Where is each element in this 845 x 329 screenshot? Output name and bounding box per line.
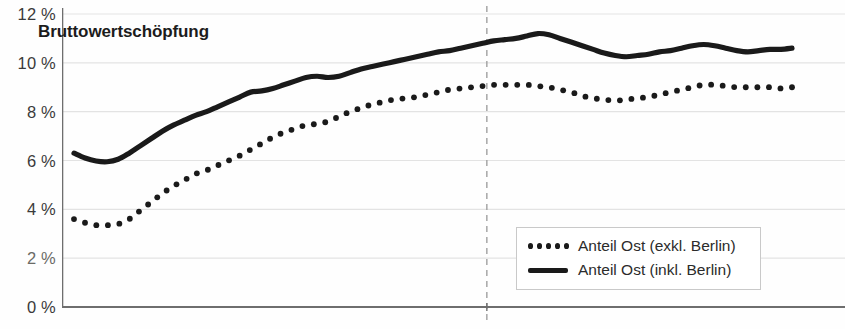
series-dot: [468, 84, 474, 90]
y-axis-tick-label: 8 %: [4, 102, 56, 121]
series-dot: [289, 127, 295, 133]
series-dot: [278, 131, 284, 137]
series-dot: [674, 88, 680, 94]
series-dot: [400, 96, 406, 102]
series-dot: [480, 83, 486, 89]
series-dot: [184, 176, 190, 182]
series-dot: [267, 136, 273, 142]
legend-item-inkl-berlin[interactable]: Anteil Ost (inkl. Berlin): [527, 258, 750, 282]
series-dot: [82, 220, 88, 226]
series-dot: [663, 90, 669, 96]
series-dot: [457, 86, 463, 92]
y-axis-tick-label: 10 %: [4, 53, 56, 72]
series-dot: [720, 83, 726, 89]
series-exkl-berlin: [71, 82, 795, 228]
series-dot: [145, 202, 151, 208]
series-dot: [594, 96, 600, 102]
series-dot: [93, 222, 99, 228]
series-dot: [388, 97, 394, 103]
series-dot: [164, 188, 170, 194]
series-dot: [355, 106, 361, 112]
series-dot: [778, 86, 784, 92]
series-dot: [205, 167, 211, 173]
series-dot: [322, 119, 328, 125]
series-dot: [445, 87, 451, 93]
series-dot: [366, 103, 372, 109]
series-dot: [333, 115, 339, 121]
series-dot: [344, 110, 350, 116]
legend-item-exkl-berlin[interactable]: Anteil Ost (exkl. Berlin): [527, 234, 750, 258]
legend-label-exkl-berlin: Anteil Ost (exkl. Berlin): [578, 237, 736, 255]
series-dot: [617, 97, 623, 103]
series-dot: [503, 82, 509, 88]
series-dot: [377, 100, 383, 106]
series-dot: [629, 96, 635, 102]
series-dot: [685, 85, 691, 91]
series-inkl-berlin: [74, 33, 792, 161]
series-dot: [754, 84, 760, 90]
series-dot: [116, 221, 122, 227]
series-dot: [237, 153, 243, 159]
series-dot: [194, 170, 200, 176]
series-dot: [136, 209, 142, 215]
series-dot: [697, 83, 703, 89]
y-axis-tick-label: 6 %: [4, 151, 56, 170]
series-dot: [731, 84, 737, 90]
chart-title: Bruttowertschöpfung: [38, 22, 209, 42]
series-dot: [257, 142, 263, 148]
y-axis-tick-label: 12 %: [4, 5, 56, 24]
legend-label-inkl-berlin: Anteil Ost (inkl. Berlin): [578, 261, 731, 279]
series-dot: [71, 216, 77, 222]
series-dot: [174, 181, 180, 187]
y-axis-tick-label: 0 %: [4, 298, 56, 317]
series-dot: [537, 83, 543, 89]
series-dot: [651, 93, 657, 99]
series-dot: [154, 194, 160, 200]
series-dot: [300, 123, 306, 129]
series-dot: [216, 162, 222, 168]
series-dot: [105, 222, 111, 228]
series-dot: [583, 94, 589, 100]
series-dot: [526, 82, 532, 88]
series-dot: [560, 87, 566, 93]
series-dot: [743, 84, 749, 90]
y-axis: 0 %2 %4 %6 %8 %10 %12 %: [0, 0, 56, 329]
chart-container: 0 %2 %4 %6 %8 %10 %12 % Bruttowertschöpf…: [0, 0, 845, 329]
series-dot: [247, 147, 253, 153]
series-dot: [127, 216, 133, 222]
series-dot: [226, 157, 232, 163]
series-dot: [640, 95, 646, 101]
series-dot: [491, 82, 497, 88]
series-dot: [708, 82, 714, 88]
y-axis-tick-label: 4 %: [4, 200, 56, 219]
series-dot: [571, 90, 577, 96]
clipped-x-axis-strip: [0, 315, 845, 329]
series-dot: [789, 84, 795, 90]
series-dot: [766, 84, 772, 90]
chart-legend: Anteil Ost (exkl. Berlin) Anteil Ost (in…: [516, 227, 761, 290]
series-dot: [311, 121, 317, 127]
dotted-marker-icon: [527, 239, 569, 253]
series-dot: [549, 85, 555, 91]
series-dot: [605, 97, 611, 103]
series-dot: [434, 90, 440, 96]
series-dot: [411, 94, 417, 100]
series-line: [74, 33, 792, 161]
y-axis-tick-label: 2 %: [4, 249, 56, 268]
series-dot: [514, 82, 520, 88]
solid-line-marker-icon: [527, 263, 569, 277]
series-dot: [422, 92, 428, 98]
